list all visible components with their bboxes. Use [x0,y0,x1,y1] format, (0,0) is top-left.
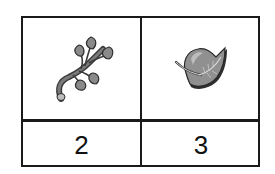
cell-branch-image [23,18,142,122]
count-value: 3 [194,132,208,158]
count-value: 2 [74,132,88,158]
branch-with-leaves-icon [47,33,117,105]
picture-number-table: 2 3 [21,16,260,167]
cell-leaf-image [142,18,260,122]
single-leaf-icon [173,45,229,93]
cell-branch-count: 2 [23,122,142,165]
cell-leaf-count: 3 [142,122,260,165]
